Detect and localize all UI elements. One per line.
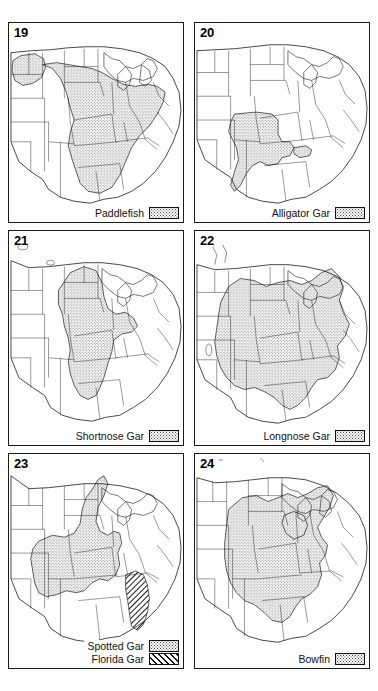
legend-22: Longnose Gar bbox=[260, 430, 365, 442]
legend-row-florida-gar: Florida Gar bbox=[88, 653, 179, 665]
legend-19: Paddlefish bbox=[92, 207, 179, 219]
map-graphic-23 bbox=[9, 454, 183, 668]
legend-swatch-stipple-icon bbox=[149, 430, 179, 442]
legend-label-bowfin: Bowfin bbox=[298, 653, 330, 665]
legend-swatch-hatch-icon bbox=[149, 653, 179, 665]
map-panel-21[interactable]: 21 bbox=[8, 230, 184, 446]
legend-label-shortnose-gar: Shortnose Gar bbox=[76, 430, 144, 442]
map-panel-20[interactable]: 20 bbox=[194, 22, 370, 223]
figure-sheet: 19 bbox=[0, 0, 378, 691]
panel-number-23: 23 bbox=[14, 457, 28, 470]
usa-map-svg-21 bbox=[9, 231, 183, 445]
legend-21: Shortnose Gar bbox=[73, 430, 179, 442]
legend-row-bowfin: Bowfin bbox=[295, 653, 365, 665]
legend-label-paddlefish: Paddlefish bbox=[95, 207, 144, 219]
legend-swatch-stipple-icon bbox=[149, 640, 179, 652]
panel-grid: 19 bbox=[8, 22, 370, 670]
map-graphic-24 bbox=[195, 454, 369, 668]
map-panel-24[interactable]: 24 bbox=[194, 453, 370, 669]
legend-label-alligator-gar: Alligator Gar bbox=[272, 207, 330, 219]
legend-swatch-stipple-icon bbox=[335, 653, 365, 665]
map-graphic-19 bbox=[9, 23, 183, 222]
legend-swatch-stipple-icon bbox=[335, 207, 365, 219]
panel-number-22: 22 bbox=[200, 234, 214, 247]
legend-20: Alligator Gar bbox=[269, 207, 365, 219]
legend-23: Spotted Gar Florida Gar bbox=[84, 640, 179, 665]
legend-label-florida-gar: Florida Gar bbox=[91, 653, 144, 665]
legend-row-paddlefish: Paddlefish bbox=[92, 207, 179, 219]
panel-number-19: 19 bbox=[14, 26, 28, 39]
map-panel-23[interactable]: 23 bbox=[8, 453, 184, 669]
usa-map-svg-20 bbox=[195, 23, 369, 222]
panel-number-24: 24 bbox=[200, 457, 214, 470]
map-panel-22[interactable]: 22 bbox=[194, 230, 370, 446]
legend-swatch-stipple-icon bbox=[149, 207, 179, 219]
usa-map-svg-23 bbox=[9, 454, 183, 668]
panel-number-21: 21 bbox=[14, 234, 28, 247]
usa-map-svg-22 bbox=[195, 231, 369, 445]
map-graphic-20 bbox=[195, 23, 369, 222]
panel-number-20: 20 bbox=[200, 26, 214, 39]
usa-map-svg-19 bbox=[9, 23, 183, 222]
legend-row-shortnose-gar: Shortnose Gar bbox=[73, 430, 179, 442]
legend-row-longnose-gar: Longnose Gar bbox=[260, 430, 365, 442]
legend-row-spotted-gar: Spotted Gar bbox=[84, 640, 179, 652]
legend-swatch-stipple-icon bbox=[335, 430, 365, 442]
usa-map-svg-24 bbox=[195, 454, 369, 668]
map-panel-19[interactable]: 19 bbox=[8, 22, 184, 223]
legend-label-spotted-gar: Spotted Gar bbox=[87, 640, 144, 652]
map-graphic-21 bbox=[9, 231, 183, 445]
legend-24: Bowfin bbox=[295, 653, 365, 665]
map-graphic-22 bbox=[195, 231, 369, 445]
legend-label-longnose-gar: Longnose Gar bbox=[263, 430, 330, 442]
legend-row-alligator-gar: Alligator Gar bbox=[269, 207, 365, 219]
